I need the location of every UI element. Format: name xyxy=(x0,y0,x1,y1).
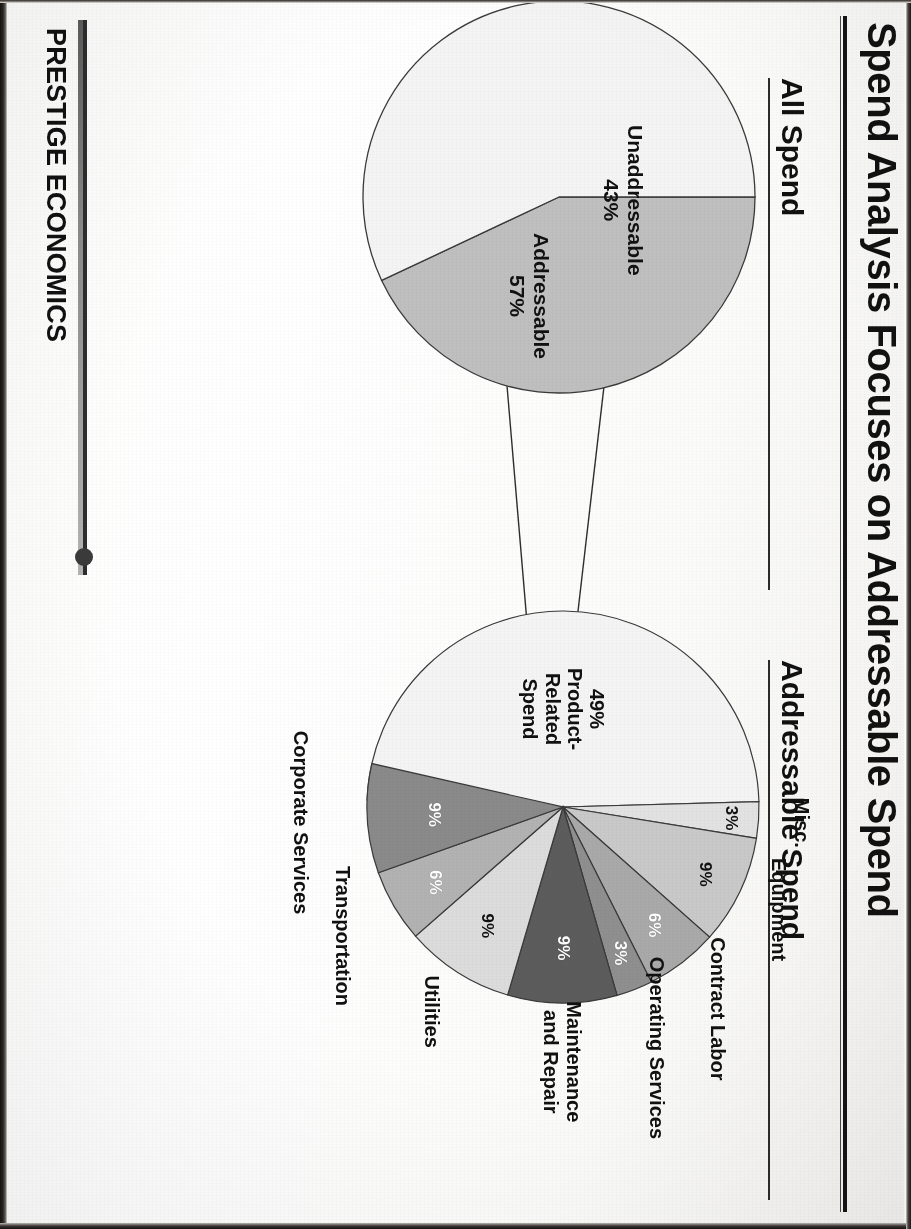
chart-addressable-spend: 49% Product- Related Spend 3% 9% 6% 3% 9… xyxy=(363,607,763,1007)
pie-label-transportation: Transportation xyxy=(332,866,354,1006)
slide-content-rotated: Spend Analysis Focuses on Addressable Sp… xyxy=(0,0,911,1229)
pie-label-utilities: Utilities xyxy=(421,976,443,1048)
pie-value-misc: 3% xyxy=(722,806,741,831)
pie-label-maintenance-repair: Maintenance and Repair xyxy=(539,1001,585,1122)
pie-label-corporate-services: Corporate Services xyxy=(290,731,312,914)
pie-value-contract-labor: 6% xyxy=(644,913,663,938)
pie-label-product-related-spend: 49% Product- Related Spend xyxy=(519,668,609,750)
brand-rule-shadow xyxy=(83,20,87,575)
title-divider-shadow xyxy=(840,16,841,1212)
brand-dot-icon xyxy=(75,548,93,566)
brand-rule xyxy=(78,20,83,575)
pie-label-misc: Misc. xyxy=(790,798,812,848)
pie-value-operating-services: 3% xyxy=(611,941,630,966)
pie-value-transportation: 6% xyxy=(425,870,444,895)
scan-edge-bottom xyxy=(0,1223,911,1229)
pie-label-equipment: Equipment xyxy=(768,858,790,961)
title-divider xyxy=(843,16,847,1212)
pie-label-unaddressable: Unaddressable 43% xyxy=(600,125,647,276)
pie-value-utilities: 9% xyxy=(477,914,496,939)
section-all-spend: All Spend xyxy=(768,78,809,590)
section-underline-all-spend xyxy=(768,78,770,590)
scan-edge-right xyxy=(906,0,911,1229)
chart-all-spend: Unaddressable 43% Addressable 57% xyxy=(359,0,759,397)
pie-label-contract-labor: Contract Labor xyxy=(707,937,729,1080)
scan-edge-left xyxy=(0,0,7,1229)
slide-photo: Spend Analysis Focuses on Addressable Sp… xyxy=(0,0,911,1229)
pie-value-equipment: 9% xyxy=(695,862,714,887)
pie-label-operating-services: Operating Services xyxy=(646,957,668,1139)
pie-value-corporate-services: 9% xyxy=(424,802,443,827)
pie-label-addressable: Addressable 57% xyxy=(506,233,553,359)
scan-edge-top xyxy=(0,0,911,3)
brand-name: PRESTIGE ECONOMICS xyxy=(40,28,71,342)
section-heading-all-spend: All Spend xyxy=(775,78,809,590)
pie-value-maintenance-repair: 9% xyxy=(553,936,572,961)
page-title: Spend Analysis Focuses on Addressable Sp… xyxy=(861,22,903,1212)
pie-all-spend xyxy=(359,0,759,397)
